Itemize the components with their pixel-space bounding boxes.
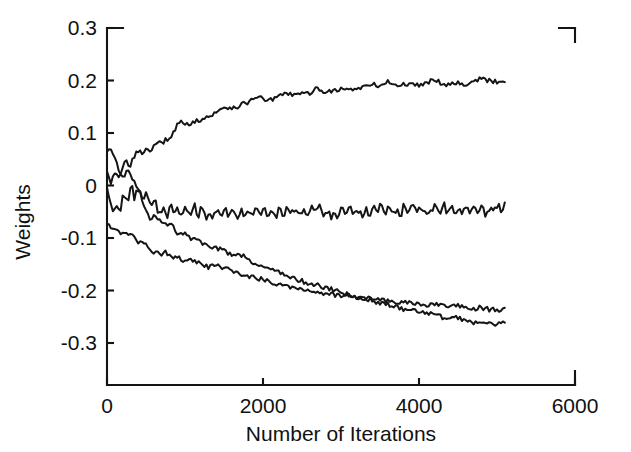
series-line-weight-1-rising	[107, 77, 505, 184]
weights-convergence-chart: 0200040006000 0.30.20.10-0.1-0.2-0.3 Num…	[0, 0, 631, 452]
x-axis-title: Number of Iterations	[246, 422, 436, 445]
series-line-weight-4-gradual-decline	[107, 224, 505, 312]
x-tick-label: 4000	[396, 394, 443, 417]
y-tick-label: 0.2	[68, 69, 97, 92]
x-tick-label: 6000	[552, 394, 599, 417]
y-tick-label: 0.3	[68, 16, 97, 39]
y-axis-tick-labels: 0.30.20.10-0.1-0.2-0.3	[61, 16, 97, 354]
y-tick-label: -0.3	[61, 331, 97, 354]
series-line-weight-3-steep-decline	[107, 149, 505, 326]
y-axis-title: Weights	[11, 184, 34, 259]
y-tick-label: 0.1	[68, 121, 97, 144]
x-tick-label: 0	[101, 394, 113, 417]
series-lines	[107, 77, 505, 325]
x-axis-tick-labels: 0200040006000	[101, 394, 598, 417]
y-tick-label: 0	[85, 174, 97, 197]
x-tick-label: 2000	[240, 394, 287, 417]
y-tick-label: -0.2	[61, 279, 97, 302]
series-line-weight-2-flat	[107, 186, 505, 220]
figure-canvas: 0200040006000 0.30.20.10-0.1-0.2-0.3 Num…	[0, 0, 631, 452]
y-tick-label: -0.1	[61, 226, 97, 249]
